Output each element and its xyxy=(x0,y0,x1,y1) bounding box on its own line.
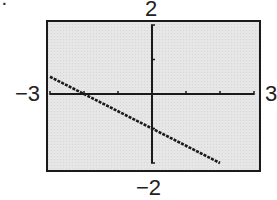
screen-background xyxy=(47,21,260,171)
ymax-label: 2 xyxy=(145,0,157,20)
ymin-label: −2 xyxy=(136,177,161,199)
graph-screen xyxy=(0,0,277,200)
xmax-label: 3 xyxy=(265,83,277,105)
xmin-label: −3 xyxy=(15,83,40,105)
